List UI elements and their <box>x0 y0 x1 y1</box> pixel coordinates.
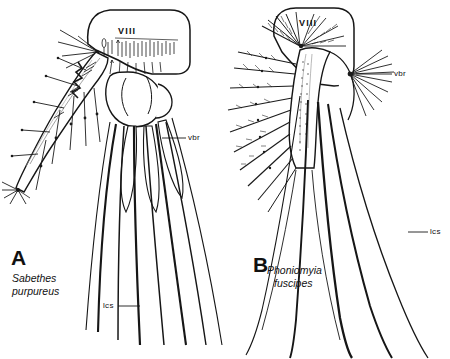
panel-a-letter: A <box>11 246 26 270</box>
panel-b-lcs-label: lcs <box>430 227 441 236</box>
panel-a-segment-viii-label: VIII <box>118 26 136 36</box>
panel-a-vbr-label: vbr <box>188 133 200 142</box>
panel-b-vbr-label: vbr <box>394 69 406 78</box>
panel-a-genus: Sabethes <box>12 272 56 285</box>
plate-background <box>0 0 450 359</box>
figure-plate <box>0 0 450 359</box>
panel-b-species: fuscipes <box>274 277 313 290</box>
panel-a-lcs-label: lcs <box>103 301 114 310</box>
panel-b-letter: B <box>253 253 268 277</box>
panel-b-genus: Phoniomyia <box>267 264 322 277</box>
panel-a-species: purpureus <box>12 285 59 298</box>
panel-b-segment-viii-label: VIII <box>299 18 317 28</box>
